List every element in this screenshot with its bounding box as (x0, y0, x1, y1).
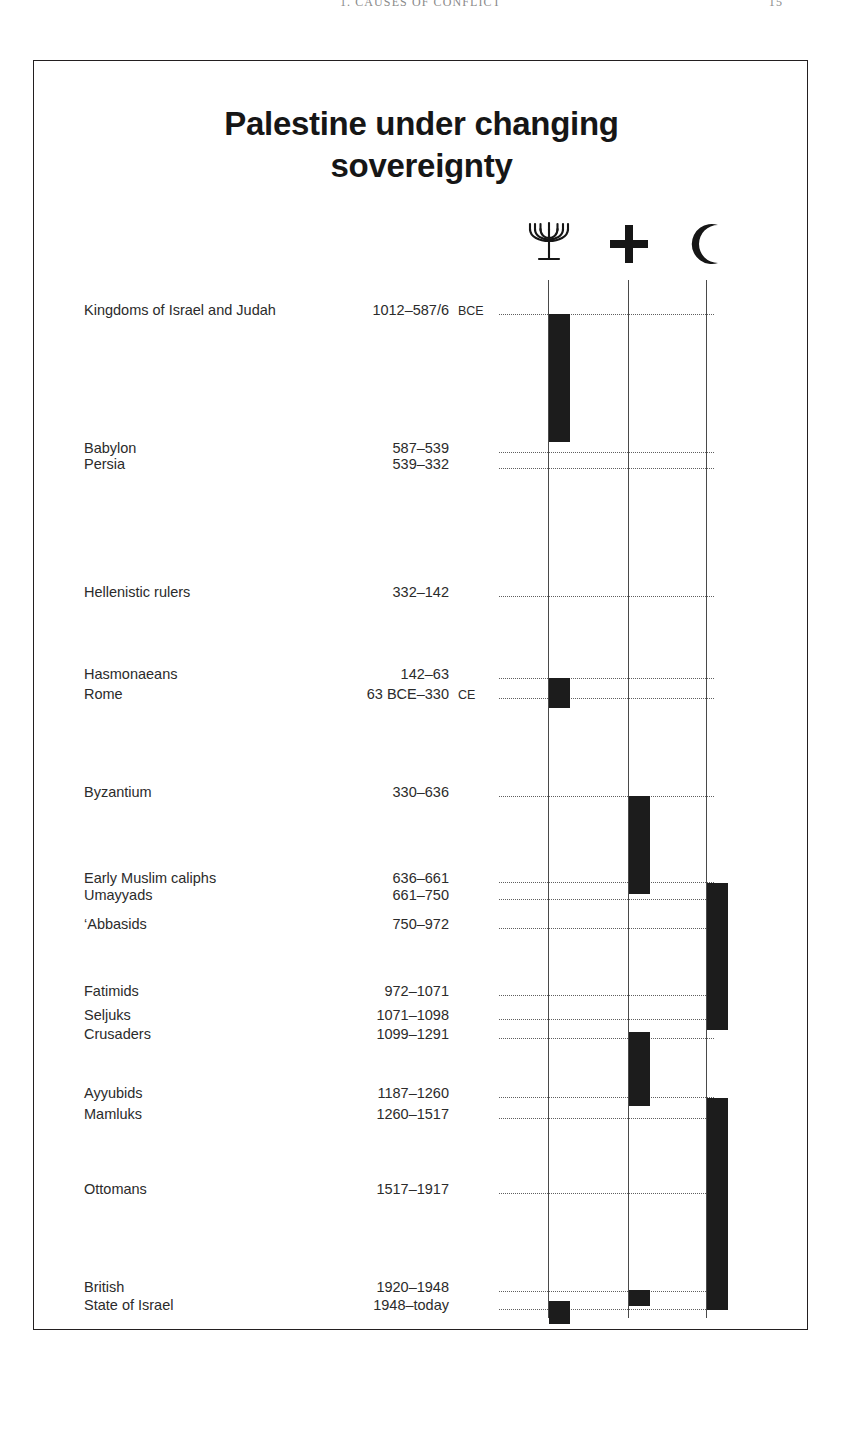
row-dates-babylon: 587–539 (254, 441, 449, 456)
row-dates-ottomans: 1517–1917 (254, 1182, 449, 1197)
menorah-icon (519, 219, 579, 271)
leader-dots-persia (499, 468, 714, 470)
row-name-abbasids: ‘Abbasids (84, 917, 147, 932)
row-dates-persia: 539–332 (254, 457, 449, 472)
row-name-byzantium: Byzantium (84, 785, 152, 800)
sovereignty-bar-ayyubids-mamluks-ottomans (707, 1098, 728, 1310)
leader-dots-ayyubids (499, 1097, 714, 1099)
sovereignty-bar-byzantium-early-caliphs (629, 796, 650, 894)
running-title: 1. CAUSES OF CONFLICT (0, 0, 841, 10)
row-name-fatimids: Fatimids (84, 984, 139, 999)
leader-dots-fatimids (499, 995, 714, 997)
figure-title: Palestine under changing sovereignty (34, 103, 809, 187)
sovereignty-bar-hasmonaeans (549, 678, 570, 708)
row-era-kingdoms-of-israel-and-judah: BCE (458, 304, 494, 319)
row-dates-state-of-israel: 1948–today (254, 1298, 449, 1313)
cross-icon (599, 219, 659, 271)
leader-dots-state-of-israel (499, 1309, 714, 1311)
row-name-umayyads: Umayyads (84, 888, 153, 903)
row-dates-umayyads: 661–750 (254, 888, 449, 903)
row-name-kingdoms-of-israel-and-judah: Kingdoms of Israel and Judah (84, 303, 276, 318)
leader-dots-abbasids (499, 928, 714, 930)
leader-dots-early-muslim-caliphs (499, 882, 714, 884)
row-name-british: British (84, 1280, 124, 1295)
row-dates-hellenistic-rulers: 332–142 (254, 585, 449, 600)
leader-dots-seljuks (499, 1019, 714, 1021)
row-dates-mamluks: 1260–1517 (254, 1107, 449, 1122)
leader-dots-hellenistic-rulers (499, 596, 714, 598)
row-dates-kingdoms-of-israel-and-judah: 1012–587/6 (254, 303, 449, 318)
row-name-mamluks: Mamluks (84, 1107, 142, 1122)
figure-title-line-2: sovereignty (331, 147, 513, 184)
leader-dots-hasmonaeans (499, 678, 714, 680)
row-dates-abbasids: 750–972 (254, 917, 449, 932)
row-name-crusaders: Crusaders (84, 1027, 151, 1042)
row-era-rome: CE (458, 688, 494, 703)
row-dates-crusaders: 1099–1291 (254, 1027, 449, 1042)
leader-dots-mamluks (499, 1118, 714, 1120)
row-name-early-muslim-caliphs: Early Muslim caliphs (84, 871, 216, 886)
row-dates-british: 1920–1948 (254, 1280, 449, 1295)
sovereignty-bar-british (629, 1290, 650, 1306)
row-name-hasmonaeans: Hasmonaeans (84, 667, 178, 682)
sovereignty-bar-kingdoms-of-israel-and-judah (549, 314, 570, 442)
row-dates-hasmonaeans: 142–63 (254, 667, 449, 682)
leader-dots-ottomans (499, 1193, 714, 1195)
row-name-state-of-israel: State of Israel (84, 1298, 173, 1313)
leader-dots-umayyads (499, 899, 714, 901)
crescent-icon (677, 219, 737, 271)
row-dates-fatimids: 972–1071 (254, 984, 449, 999)
row-dates-early-muslim-caliphs: 636–661 (254, 871, 449, 886)
page-running-header: 1. CAUSES OF CONFLICT 15 (0, 0, 841, 13)
row-name-ottomans: Ottomans (84, 1182, 147, 1197)
row-name-seljuks: Seljuks (84, 1008, 131, 1023)
row-dates-seljuks: 1071–1098 (254, 1008, 449, 1023)
row-name-ayyubids: Ayyubids (84, 1086, 143, 1101)
leader-dots-rome (499, 698, 714, 700)
row-dates-rome: 63 BCE–330 (254, 687, 449, 702)
leader-dots-crusaders (499, 1038, 714, 1040)
leader-dots-byzantium (499, 796, 714, 798)
leader-dots-babylon (499, 452, 714, 454)
sovereignty-bar-crusaders (629, 1032, 650, 1106)
leader-dots-kingdoms-of-israel-and-judah (499, 314, 714, 316)
figure-title-line-1: Palestine under changing (224, 105, 618, 142)
figure-frame: Palestine under changing sovereignty (33, 60, 808, 1330)
row-name-rome: Rome (84, 687, 123, 702)
sovereignty-bar-umayyads-abbasids-fatimids (707, 883, 728, 1030)
row-dates-byzantium: 330–636 (254, 785, 449, 800)
row-name-hellenistic-rulers: Hellenistic rulers (84, 585, 190, 600)
row-dates-ayyubids: 1187–1260 (254, 1086, 449, 1101)
row-name-persia: Persia (84, 457, 125, 472)
page-number: 15 (769, 0, 783, 10)
row-name-babylon: Babylon (84, 441, 136, 456)
sovereignty-bar-state-of-israel (549, 1301, 570, 1324)
leader-dots-british (499, 1291, 714, 1293)
